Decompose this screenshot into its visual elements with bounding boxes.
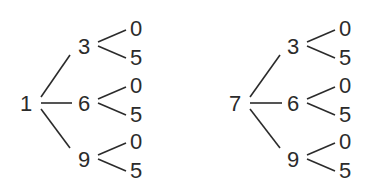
leaf-node: 5 bbox=[130, 102, 142, 127]
edge bbox=[98, 87, 126, 99]
edge bbox=[307, 159, 335, 171]
edge bbox=[307, 143, 335, 155]
branch-node: 6 bbox=[287, 91, 299, 116]
leaf-node: 5 bbox=[339, 102, 351, 127]
leaf-node: 5 bbox=[339, 45, 351, 70]
edge bbox=[250, 109, 280, 148]
edge bbox=[41, 109, 70, 148]
tree-right: 7 3 6 9 0 5 0 5 0 5 bbox=[229, 16, 351, 183]
edge bbox=[307, 46, 335, 58]
branch-node: 9 bbox=[287, 147, 299, 172]
leaf-node: 0 bbox=[130, 16, 142, 41]
leaf-node: 5 bbox=[130, 45, 142, 70]
branch-node: 3 bbox=[287, 34, 299, 59]
leaf-node: 5 bbox=[130, 158, 142, 183]
root-node: 1 bbox=[20, 91, 32, 116]
leaf-node: 0 bbox=[130, 73, 142, 98]
tree-diagrams-canvas: 1 3 6 9 0 5 0 5 0 5 7 3 6 9 0 5 bbox=[0, 0, 380, 191]
edge bbox=[307, 30, 335, 42]
edge bbox=[98, 46, 126, 58]
leaf-node: 0 bbox=[130, 129, 142, 154]
leaf-node: 5 bbox=[339, 158, 351, 183]
edge bbox=[98, 103, 126, 115]
edge bbox=[250, 55, 280, 97]
edge bbox=[98, 159, 126, 171]
root-node: 7 bbox=[229, 91, 241, 116]
edge bbox=[307, 103, 335, 115]
leaf-node: 0 bbox=[339, 16, 351, 41]
edge bbox=[41, 55, 70, 97]
edge bbox=[98, 30, 126, 42]
branch-node: 6 bbox=[78, 91, 90, 116]
branch-node: 9 bbox=[78, 147, 90, 172]
leaf-node: 0 bbox=[339, 73, 351, 98]
edge bbox=[98, 143, 126, 155]
tree-left: 1 3 6 9 0 5 0 5 0 5 bbox=[20, 16, 142, 183]
leaf-node: 0 bbox=[339, 129, 351, 154]
branch-node: 3 bbox=[78, 34, 90, 59]
edge bbox=[307, 87, 335, 99]
